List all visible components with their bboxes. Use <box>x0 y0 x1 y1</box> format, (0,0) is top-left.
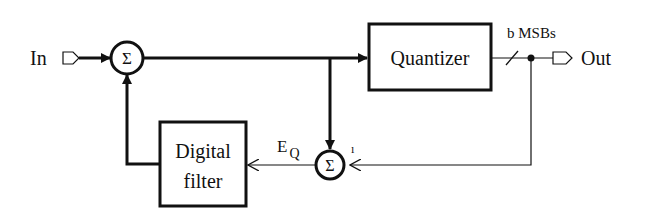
minus-sign-mark: ı <box>351 142 355 156</box>
sum-symbol: Σ <box>122 49 132 68</box>
filter-label-line1: Digital <box>175 140 231 163</box>
summing-junction-2: Σ <box>316 151 344 179</box>
error-label: EQ <box>277 137 300 161</box>
filter-label-line2: filter <box>184 170 223 192</box>
noise-shaping-quantizer-diagram: In Σ Quantizer b MSBs Out Σ ı EQ Digital… <box>0 0 647 216</box>
sum-symbol: Σ <box>325 157 334 174</box>
summing-junction-1: Σ <box>111 42 143 74</box>
error-label-subscript: Q <box>289 146 299 161</box>
quantizer-block: Quantizer <box>369 24 491 90</box>
filter-feedback-line <box>127 75 160 164</box>
digital-filter-block: Digital filter <box>160 122 246 206</box>
quantizer-label: Quantizer <box>391 47 470 69</box>
output-port-icon <box>553 52 572 64</box>
output-label: Out <box>581 47 611 69</box>
input-port-icon <box>63 52 79 64</box>
input-label: In <box>30 47 47 69</box>
error-label-main: E <box>277 137 287 156</box>
bus-width-label: b MSBs <box>507 25 556 41</box>
